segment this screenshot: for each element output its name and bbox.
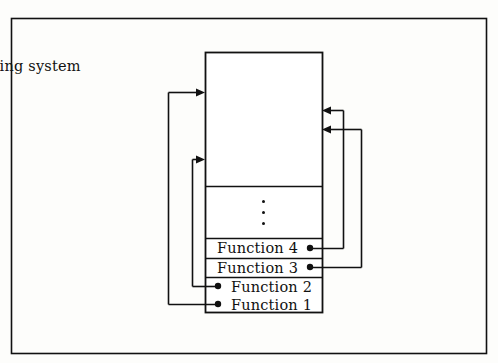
function-row-label-4: Function 1 bbox=[213, 298, 330, 313]
arrowhead-4 bbox=[196, 89, 205, 97]
function-row-label-3: Function 2 bbox=[213, 280, 330, 295]
ellipsis-dot-1 bbox=[262, 200, 265, 203]
ellipsis-dot-3 bbox=[262, 222, 265, 225]
function-row-label-2: Function 3 bbox=[199, 261, 316, 276]
ellipsis-dot-2 bbox=[262, 211, 265, 214]
diagram-figure: Operating system Function 4Function 3Fun… bbox=[0, 0, 498, 363]
arrowhead-3 bbox=[196, 156, 205, 164]
os-block-title-text: Operating system bbox=[0, 58, 81, 74]
os-block-title: Operating system bbox=[0, 59, 498, 74]
function-row-label-1: Function 4 bbox=[199, 241, 316, 256]
